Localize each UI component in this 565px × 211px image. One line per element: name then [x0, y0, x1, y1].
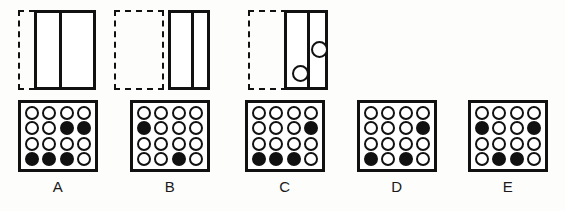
dot-r3-c3-empty — [60, 137, 74, 151]
dot-r2-c2-empty — [269, 121, 283, 135]
dot-r1-c3-empty — [399, 106, 413, 120]
dot-r2-c2-empty — [381, 121, 395, 135]
dot-r1-c2-empty — [42, 106, 56, 120]
dot-r1-c4-empty — [527, 106, 541, 120]
dot-r3-c4-empty — [527, 137, 541, 151]
dot-r1-c1-empty — [25, 106, 39, 120]
dot-r1-c2-empty — [269, 106, 283, 120]
answer-option-a[interactable]: A — [18, 100, 98, 194]
dot-r3-c1-empty — [137, 137, 151, 151]
solid-panel — [34, 10, 96, 90]
dot-r2-c1-filled — [137, 121, 151, 135]
dot-r4-c3-filled — [510, 152, 524, 166]
dot-r4-c1-filled — [364, 152, 378, 166]
dashed-ghost-square — [114, 10, 164, 90]
dot-grid-inner — [21, 103, 95, 169]
option-dot-grid[interactable] — [130, 100, 210, 172]
dot-r3-c2-empty — [269, 137, 283, 151]
dot-grid-inner — [248, 103, 322, 169]
dot-r1-c3-empty — [287, 106, 301, 120]
dot-r3-c4-empty — [304, 137, 318, 151]
dot-grid-inner — [360, 103, 434, 169]
dot-r1-c4-empty — [304, 106, 318, 120]
dot-r1-c3-empty — [60, 106, 74, 120]
dot-r4-c4-empty — [304, 152, 318, 166]
answer-option-c[interactable]: C — [245, 100, 325, 194]
dot-r1-c2-empty — [492, 106, 506, 120]
answer-option-d[interactable]: D — [357, 100, 437, 194]
dot-r4-c3-filled — [287, 152, 301, 166]
option-label: C — [245, 179, 325, 194]
dot-r4-c3-filled — [399, 152, 413, 166]
dot-r4-c1-empty — [475, 152, 489, 166]
option-label: A — [18, 179, 98, 194]
dot-r4-c2-filled — [492, 152, 506, 166]
dot-r2-c1-filled — [475, 121, 489, 135]
dot-r4-c1-filled — [252, 152, 266, 166]
dot-r2-c3-empty — [172, 121, 186, 135]
circle-upper-right — [311, 41, 328, 58]
dot-r3-c1-empty — [364, 137, 378, 151]
dot-r3-c3-empty — [172, 137, 186, 151]
dot-r1-c4-empty — [416, 106, 430, 120]
dot-r4-c4-empty — [527, 152, 541, 166]
dot-r1-c1-empty — [475, 106, 489, 120]
dot-r1-c3-empty — [172, 106, 186, 120]
dot-r1-c1-empty — [252, 106, 266, 120]
panel-divider-line — [59, 13, 62, 87]
dot-r2-c4-filled — [304, 121, 318, 135]
dot-r2-c4-filled — [416, 121, 430, 135]
dot-r2-c2-empty — [42, 121, 56, 135]
circle-lower-left — [292, 65, 309, 82]
dot-r2-c4-filled — [77, 121, 91, 135]
dot-r2-c2-empty — [492, 121, 506, 135]
solid-panel — [168, 10, 210, 90]
option-dot-grid[interactable] — [18, 100, 98, 172]
dot-r3-c1-empty — [475, 137, 489, 151]
answer-option-b[interactable]: B — [130, 100, 210, 194]
dot-r1-c4-empty — [77, 106, 91, 120]
figure-reasoning-item: ABCDE — [0, 0, 565, 211]
dot-r3-c3-empty — [287, 137, 301, 151]
dot-r2-c1-empty — [252, 121, 266, 135]
dot-r3-c3-empty — [510, 137, 524, 151]
dot-r2-c3-empty — [287, 121, 301, 135]
dot-r2-c1-empty — [25, 121, 39, 135]
solid-panel — [284, 10, 328, 90]
dot-r3-c2-empty — [42, 137, 56, 151]
answer-option-e[interactable]: E — [468, 100, 548, 194]
dot-r3-c2-empty — [381, 137, 395, 151]
dot-r2-c1-empty — [364, 121, 378, 135]
dot-r1-c1-empty — [137, 106, 151, 120]
dot-r4-c2-filled — [42, 152, 56, 166]
dot-r3-c4-empty — [77, 137, 91, 151]
dot-r2-c4-empty — [189, 121, 203, 135]
dot-grid-inner — [133, 103, 207, 169]
dot-r4-c3-filled — [60, 152, 74, 166]
dot-r1-c3-empty — [510, 106, 524, 120]
panel-divider-line — [191, 13, 194, 87]
dot-r1-c2-empty — [381, 106, 395, 120]
dot-r1-c4-empty — [189, 106, 203, 120]
dot-r4-c4-empty — [416, 152, 430, 166]
dot-r2-c3-filled — [60, 121, 74, 135]
option-label: D — [357, 179, 437, 194]
answer-options-row: ABCDE — [0, 100, 565, 211]
dot-r1-c2-empty — [154, 106, 168, 120]
dot-r3-c3-empty — [399, 137, 413, 151]
dot-r4-c1-empty — [137, 152, 151, 166]
dot-r4-c2-empty — [381, 152, 395, 166]
option-dot-grid[interactable] — [357, 100, 437, 172]
dot-r4-c2-filled — [269, 152, 283, 166]
dot-r4-c4-empty — [189, 152, 203, 166]
dot-r2-c3-empty — [399, 121, 413, 135]
option-dot-grid[interactable] — [245, 100, 325, 172]
option-dot-grid[interactable] — [468, 100, 548, 172]
dot-r3-c4-empty — [416, 137, 430, 151]
dot-r3-c4-empty — [189, 137, 203, 151]
option-label: E — [468, 179, 548, 194]
dot-r1-c1-empty — [364, 106, 378, 120]
stimulus-row — [0, 0, 565, 100]
dot-r3-c1-empty — [25, 137, 39, 151]
dot-r4-c1-filled — [25, 152, 39, 166]
